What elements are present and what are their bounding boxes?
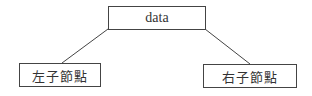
right-child-node: 右子節點 xyxy=(203,64,297,88)
left-child-node: 左子節點 xyxy=(19,63,101,87)
root-node: data xyxy=(108,6,206,30)
tree-diagram: data 左子節點 右子節點 xyxy=(0,0,312,96)
edge-root-to-right xyxy=(205,29,250,64)
left-child-label: 左子節點 xyxy=(32,66,88,85)
right-child-label: 右子節點 xyxy=(222,67,278,86)
root-node-label: data xyxy=(145,10,168,26)
edge-root-to-left xyxy=(62,29,108,63)
